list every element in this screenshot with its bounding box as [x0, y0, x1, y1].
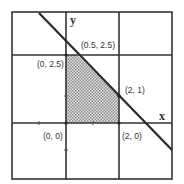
point-label-0-0: (0, 0): [43, 131, 63, 141]
shaded-feasible-region: [66, 55, 119, 123]
y-axis-label: y: [70, 13, 76, 27]
vertex-point: [117, 94, 121, 98]
vertex-point: [117, 121, 120, 124]
vertex-point: [64, 121, 67, 124]
feasible-region-diagram: y x (0, 2.5) (0.5, 2.5) (2, 1) (0, 0) (2…: [0, 0, 184, 184]
x-axis-label: x: [159, 109, 165, 123]
vertex-point: [64, 53, 67, 56]
point-label-0-2.5: (0, 2.5): [37, 59, 64, 69]
point-label-2-0: (2, 0): [122, 131, 142, 141]
constraint-line: [39, 13, 172, 150]
point-label-2-1: (2, 1): [125, 85, 145, 95]
point-label-0.5-2.5: (0.5, 2.5): [81, 40, 115, 50]
